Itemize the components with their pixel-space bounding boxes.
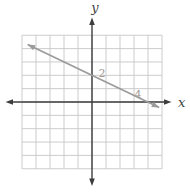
x-axis-label: x bbox=[178, 95, 186, 110]
coordinate-plane-figure: 24xy bbox=[0, 0, 190, 193]
y-axis-label: y bbox=[90, 0, 99, 15]
graph-svg: 24xy bbox=[0, 0, 190, 193]
y-tick-label-2: 2 bbox=[99, 67, 106, 80]
canvas-background bbox=[0, 0, 190, 193]
x-tick-label-4: 4 bbox=[135, 88, 142, 101]
